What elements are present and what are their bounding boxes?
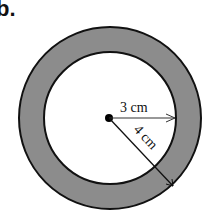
annulus-diagram: 3 cm 4 cm	[0, 0, 206, 219]
figure-canvas: b. 3 cm 4 cm	[0, 0, 206, 219]
inner-radius-label: 3 cm	[120, 100, 148, 115]
